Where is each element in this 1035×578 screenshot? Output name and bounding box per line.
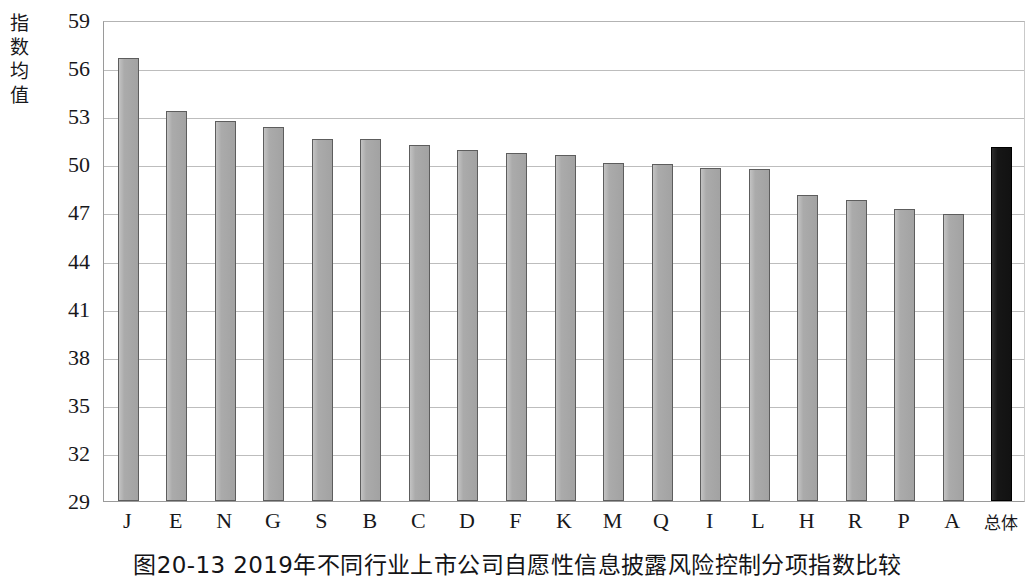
plot-area: [103, 21, 1025, 502]
y-axis-tick-labels: 2932353841444750535659: [42, 0, 94, 578]
x-axis-tick-label: B: [363, 507, 378, 535]
x-axis-tick-labels: JENGSBCDFKMQILHRPA总体: [103, 505, 1025, 545]
y-axis-tick-label: 44: [68, 251, 90, 273]
y-axis-tick-label: 56: [68, 58, 90, 80]
x-axis-tick-label: C: [411, 507, 426, 535]
bar: [118, 58, 139, 501]
y-axis-tick-label: 41: [68, 299, 90, 321]
chart-figure: 指数均值 2932353841444750535659 JENGSBCDFKMQ…: [0, 0, 1035, 578]
y-axis-title: 指数均值: [6, 12, 32, 108]
bar: [700, 168, 721, 501]
bar: [166, 111, 187, 501]
y-axis-tick-label: 29: [68, 491, 90, 513]
y-axis-tick-label: 59: [68, 10, 90, 32]
y-axis-tick-label: 53: [68, 106, 90, 128]
bar: [506, 153, 527, 501]
y-axis-tick-label: 32: [68, 443, 90, 465]
x-axis-tick-label: K: [556, 507, 572, 535]
bar: [943, 214, 964, 501]
bar: [263, 127, 284, 501]
x-axis-tick-label: 总体: [984, 510, 1018, 538]
x-axis-tick-label: J: [123, 507, 132, 535]
bar: [457, 150, 478, 501]
x-axis-tick-label: L: [751, 507, 764, 535]
x-axis-tick-label: R: [848, 507, 863, 535]
bar: [652, 164, 673, 501]
bar: [894, 209, 915, 501]
x-axis-tick-label: G: [265, 507, 281, 535]
bar: [991, 147, 1012, 501]
x-axis-tick-label: E: [169, 507, 182, 535]
x-axis-tick-label: Q: [653, 507, 669, 535]
figure-caption: 图20-13 2019年不同行业上市公司自愿性信息披露风险控制分项指数比较: [0, 552, 1035, 578]
x-axis-tick-label: P: [898, 507, 910, 535]
y-axis-title-char: 数: [6, 36, 32, 60]
x-axis-tick-label: A: [944, 507, 960, 535]
bar: [312, 139, 333, 501]
bar-series: [104, 22, 1024, 501]
y-axis-title-char: 值: [6, 84, 32, 108]
x-axis-tick-label: F: [509, 507, 521, 535]
x-axis-tick-label: S: [315, 507, 327, 535]
y-axis-tick-label: 47: [68, 202, 90, 224]
bar: [409, 145, 430, 501]
bar: [360, 139, 381, 501]
bar: [603, 163, 624, 501]
y-axis-tick-label: 50: [68, 154, 90, 176]
x-axis-tick-label: I: [706, 507, 713, 535]
y-axis-title-char: 指: [6, 12, 32, 36]
bar: [749, 169, 770, 501]
y-axis-tick-label: 35: [68, 395, 90, 417]
bar: [215, 121, 236, 501]
x-axis-tick-label: D: [459, 507, 475, 535]
y-axis-title-char: 均: [6, 60, 32, 84]
x-axis-tick-label: M: [603, 507, 623, 535]
bar: [797, 195, 818, 501]
bar: [555, 155, 576, 501]
bar: [846, 200, 867, 501]
y-axis-tick-label: 38: [68, 347, 90, 369]
x-axis-tick-label: H: [799, 507, 815, 535]
x-axis-tick-label: N: [216, 507, 232, 535]
